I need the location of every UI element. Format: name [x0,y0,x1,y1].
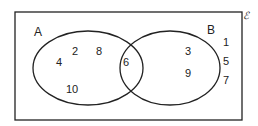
set-a-ellipse [33,31,143,105]
outside-element: 7 [223,75,229,86]
set-b-label: B [207,24,215,36]
set-b-ellipse [120,31,220,105]
outside-element: 1 [223,37,229,48]
set-a-element: 10 [66,84,78,95]
set-b-element: 9 [185,68,191,79]
universal-set-label: ℰ [243,10,249,21]
set-a-element: 2 [72,46,78,57]
set-a-label: A [34,26,42,38]
set-b-element: 3 [185,46,191,57]
set-a-element: 4 [56,57,62,68]
outside-element: 5 [223,56,229,67]
set-a-element: 8 [96,46,102,57]
intersection-element: 6 [123,57,129,68]
